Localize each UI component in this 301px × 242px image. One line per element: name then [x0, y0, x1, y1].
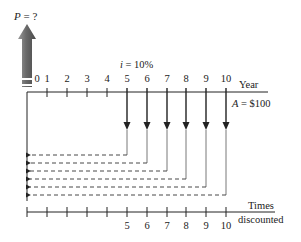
year-label-10: 10 [221, 74, 232, 85]
year-label-6: 6 [144, 74, 149, 85]
times-discounted-axis-label-line1: Times [248, 201, 274, 212]
annuity-label: A = $100 [232, 99, 271, 110]
times-discounted-label-10: 10 [221, 221, 232, 232]
year-label-3: 3 [84, 74, 89, 85]
year-label-2: 2 [64, 74, 69, 85]
year-label-8: 8 [183, 74, 188, 85]
interest-rate-label: i = 10% [120, 60, 153, 71]
discount-dashed-lines [30, 155, 226, 195]
times-discounted-axis-label-line2: discounted [238, 215, 284, 226]
present-value-rest: = ? [21, 10, 38, 22]
times-discounted-label-5: 5 [124, 221, 129, 232]
annuity-rest: = $100 [238, 98, 270, 109]
year-label-5: 5 [124, 74, 129, 85]
year-label-7: 7 [164, 74, 169, 85]
year-label-1: 1 [44, 74, 49, 85]
times-discounted-label-6: 6 [144, 221, 149, 232]
annuity-arrows [124, 88, 230, 130]
times-discounted-label-9: 9 [203, 221, 208, 232]
present-value-arrow [18, 24, 36, 87]
present-value-var: P [14, 10, 21, 22]
year-axis-label: Year [239, 80, 258, 91]
year-label-4: 4 [104, 74, 109, 85]
times-discounted-label-8: 8 [183, 221, 188, 232]
present-value-label: P = ? [14, 11, 37, 22]
interest-rest: = 10% [123, 59, 153, 70]
year-label-0: 0 [34, 74, 39, 85]
times-discounted-label-7: 7 [164, 221, 169, 232]
discount-drop-lines [127, 130, 226, 195]
year-label-9: 9 [203, 74, 208, 85]
